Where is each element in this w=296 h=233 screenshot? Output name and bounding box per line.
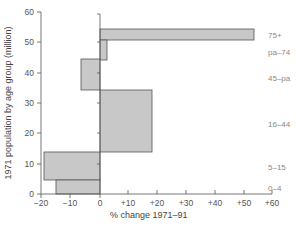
x-tick-neg20: −20 [34, 198, 49, 208]
bar-5-15 [44, 152, 100, 180]
x-tick-20: +20 [150, 198, 165, 208]
x-tick-labels: −20 −10 0 +10 +20 +30 +40 +50 +60 [34, 198, 280, 208]
category-label-0-4: 0–4 [268, 184, 282, 193]
y-tick-20: 20 [25, 128, 35, 138]
category-label-45-pa: 45–pa [268, 74, 291, 83]
bar-0-4 [56, 180, 100, 194]
bar-16-44 [100, 90, 152, 152]
y-tick-30: 30 [25, 98, 35, 108]
category-labels: 75+ pa–74 45–pa 16–44 5–15 0–4 [268, 31, 291, 193]
x-tick-10: +10 [121, 198, 136, 208]
x-tick-50: +50 [237, 198, 252, 208]
x-tick-40: +40 [208, 198, 223, 208]
x-tick-30: +30 [179, 198, 194, 208]
x-tick-neg10: −10 [63, 198, 78, 208]
bars [44, 29, 254, 194]
chart-canvas: 60 50 40 30 20 10 0 −20 −10 0 +10 +20 +3… [0, 0, 296, 233]
y-tick-labels: 60 50 40 30 20 10 0 [25, 7, 35, 199]
category-label-pa-74: pa–74 [268, 48, 291, 57]
bar-45-pa [81, 59, 100, 90]
y-tick-10: 10 [25, 159, 35, 169]
category-label-16-44: 16–44 [268, 120, 291, 129]
y-tick-60: 60 [25, 7, 35, 17]
bar-75-plus [100, 29, 254, 40]
category-label-5-15: 5–15 [268, 163, 286, 172]
y-axis [37, 12, 41, 194]
y-tick-50: 50 [25, 37, 35, 47]
y-tick-40: 40 [25, 68, 35, 78]
x-tick-0: 0 [98, 198, 103, 208]
category-label-75-plus: 75+ [268, 31, 282, 40]
bar-pa-74 [100, 40, 107, 60]
x-axis-title: % change 1971–91 [110, 210, 188, 220]
x-tick-60: +60 [265, 198, 280, 208]
y-axis-title: 1971 population by age group (million) [3, 26, 13, 179]
